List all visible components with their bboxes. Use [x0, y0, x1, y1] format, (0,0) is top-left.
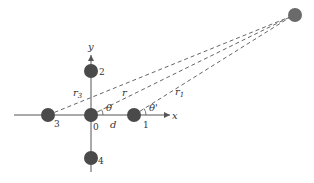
point-label-0: 0: [93, 122, 99, 132]
angle-arc-theta-prime: [144, 109, 146, 116]
dashed-line-r: [91, 16, 292, 115]
y-axis-label: y: [87, 41, 94, 52]
point-label-4: 4: [98, 156, 104, 166]
x-axis-label: x: [172, 110, 178, 121]
point-2: [84, 64, 98, 78]
point-4: [84, 151, 98, 165]
distance-label-r3: r3: [73, 87, 83, 100]
distance-label-d: d: [110, 119, 116, 130]
angle-label-theta-prime: θ': [149, 102, 158, 113]
diagram-canvas: y x 0 1 2 3 4 d r r1 r3 θ θ': [0, 0, 314, 183]
point-label-1: 1: [143, 120, 149, 130]
point-far: [288, 8, 302, 22]
distance-label-r: r: [122, 87, 128, 98]
point-3: [41, 108, 55, 122]
angle-arc-theta: [102, 110, 104, 116]
point-label-3: 3: [54, 119, 60, 129]
dashed-line-r3: [48, 16, 292, 115]
point-1: [127, 108, 141, 122]
point-0: [84, 108, 98, 122]
diagram-svg: y x 0 1 2 3 4 d r r1 r3 θ θ': [0, 0, 314, 183]
distance-label-r1: r1: [175, 86, 184, 99]
dashed-line-r1: [134, 16, 292, 115]
point-label-2: 2: [99, 67, 105, 77]
angle-label-theta: θ: [106, 102, 112, 113]
